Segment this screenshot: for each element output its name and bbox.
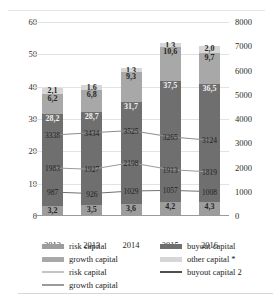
line-point-label: 1029 (124, 188, 139, 196)
legend-bar-swatch (160, 257, 182, 262)
top-divider (8, 10, 265, 11)
y2-axis-tick-label: 3000 (235, 139, 269, 148)
line-point-label: 3525 (124, 128, 139, 136)
chart-container: 0102030405060 01000200030004000500060007… (0, 0, 273, 305)
legend-column-left: risk capitalgrowth capitalrisk capitalgr… (42, 240, 118, 292)
plot-area: 2,16,228,23,21,66,828,73,51,39,331,73,61… (33, 22, 229, 216)
line-point-label: 3434 (84, 130, 99, 138)
legend-bar-swatch (42, 244, 64, 249)
y2-axis-tick-label: 5000 (235, 91, 269, 100)
legend-line-swatch (160, 271, 182, 273)
legend-item-label: other capital * (187, 255, 236, 264)
y2-axis-tick-label: 2000 (235, 164, 269, 173)
legend-item-label: growth capital (69, 255, 118, 264)
legend-bar-swatch (160, 244, 182, 249)
bottom-divider (18, 293, 273, 294)
y2-axis-tick-label: 0 (235, 212, 269, 221)
legend-column-right: buyout capitalother capital *buyout capi… (160, 240, 242, 279)
line-point-label: 1983 (45, 165, 60, 173)
legend-item[interactable]: other capital * (160, 253, 242, 265)
line-point-label: 2198 (124, 160, 139, 168)
legend-item[interactable]: risk capital (42, 240, 118, 252)
x-axis-line (33, 215, 229, 216)
legend-item[interactable]: growth capital (42, 279, 118, 291)
y2-axis-tick-label: 4000 (235, 115, 269, 124)
y2-axis-tick-label: 8000 (235, 18, 269, 27)
legend-item-label: risk capital (69, 268, 107, 277)
line-point-label: 1913 (163, 167, 178, 175)
legend-item[interactable]: buyout capital (160, 240, 242, 252)
legend-item-label: risk capital (69, 242, 107, 251)
legend-bar-swatch (42, 257, 64, 262)
line-point-label: 1819 (202, 169, 217, 177)
y2-axis-tick-label: 7000 (235, 42, 269, 51)
legend-line-swatch (42, 271, 64, 273)
y2-axis-tick-label: 1000 (235, 188, 269, 197)
legend-item[interactable]: risk capital (42, 266, 118, 278)
y2-axis-tick-label: 6000 (235, 67, 269, 76)
line-point-label: 3338 (45, 132, 60, 140)
legend-item[interactable]: buyout capital 2 (160, 266, 242, 278)
legend-item-label: buyout capital 2 (187, 268, 242, 277)
line-point-label: 1008 (202, 189, 217, 197)
line-point-label: 3265 (163, 134, 178, 142)
line-point-label: 1927 (84, 167, 99, 175)
legend-line-swatch (42, 284, 64, 286)
line-point-label: 1057 (163, 188, 178, 196)
chart-legend: risk capitalgrowth capitalrisk capitalgr… (10, 240, 263, 298)
line-point-label: 926 (86, 191, 97, 199)
legend-item[interactable]: growth capital (42, 253, 118, 265)
legend-item-label: buyout capital (187, 242, 235, 251)
line-point-label: 987 (47, 189, 58, 197)
line-point-label: 3124 (202, 137, 217, 145)
legend-item-label: growth capital (69, 281, 118, 290)
